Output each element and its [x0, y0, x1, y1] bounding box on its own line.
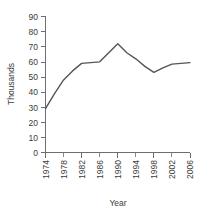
y-tick-label-90: 90 [29, 12, 39, 22]
x-tick-label-2006: 2006 [185, 160, 195, 179]
x-tick-label-1998: 1998 [149, 160, 159, 179]
y-tick-label-80: 80 [29, 27, 39, 37]
y-tick-label-40: 40 [29, 87, 39, 97]
y-tick-label-50: 50 [29, 72, 39, 82]
y-tick-label-70: 70 [29, 42, 39, 52]
x-tick-label-2002: 2002 [167, 160, 177, 179]
x-tick-label-1974: 1974 [41, 160, 51, 179]
y-tick-labels: 90 80 70 60 50 40 30 20 10 0 [29, 12, 39, 158]
y-tick-label-20: 20 [29, 118, 39, 128]
y-tick-label-10: 10 [29, 133, 39, 143]
x-tick-label-1978: 1978 [59, 160, 69, 179]
y-tick-label-0: 0 [33, 148, 38, 158]
y-tick-label-60: 60 [29, 57, 39, 67]
x-tick-label-1986: 1986 [95, 160, 105, 179]
x-tick-label-1982: 1982 [77, 160, 87, 179]
y-tick-marks [41, 17, 46, 153]
x-tick-label-1990: 1990 [113, 160, 123, 179]
y-tick-label-30: 30 [29, 103, 39, 113]
chart-plot-area: 90 80 70 60 50 40 30 20 10 0 1974 1978 [0, 0, 201, 215]
line-chart: 90 80 70 60 50 40 30 20 10 0 1974 1978 [0, 0, 201, 215]
x-tick-labels: 1974 1978 1982 1986 1990 1994 1998 2002 … [41, 160, 196, 179]
x-tick-label-1994: 1994 [131, 160, 141, 179]
axes-group [46, 16, 191, 153]
y-axis-title: Thousands [6, 63, 16, 105]
x-axis-title: Year [109, 198, 126, 208]
data-series-line [46, 44, 191, 109]
x-tick-marks [46, 153, 191, 158]
